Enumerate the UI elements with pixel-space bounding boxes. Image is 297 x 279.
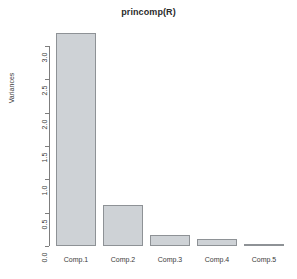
y-tick-label-1: 0.5 [41, 211, 48, 237]
bar-Comp.4 [197, 239, 237, 246]
bar-Comp.1 [56, 33, 96, 246]
x-label-Comp.3: Comp.3 [150, 256, 190, 263]
y-axis-label: Variances [8, 48, 15, 128]
y-tick-label-3: 1.5 [41, 145, 48, 171]
bar-Comp.5 [244, 244, 284, 246]
screeplot-figure: princomp(R) Variances 0.00.51.01.52.02.5… [0, 0, 297, 279]
y-tick-label-4: 2.0 [41, 111, 48, 137]
x-label-Comp.1: Comp.1 [56, 256, 96, 263]
y-axis-line [49, 46, 50, 246]
bar-Comp.2 [103, 205, 143, 246]
y-tick-label-6: 3.0 [41, 45, 48, 71]
y-tick-label-5: 2.5 [41, 78, 48, 104]
y-tick-label-0: 0.0 [41, 245, 48, 271]
x-label-Comp.2: Comp.2 [103, 256, 143, 263]
bar-Comp.3 [150, 235, 190, 246]
x-label-Comp.5: Comp.5 [244, 256, 284, 263]
page-title: princomp(R) [0, 7, 297, 17]
x-label-Comp.4: Comp.4 [197, 256, 237, 263]
y-tick-label-2: 1.0 [41, 178, 48, 204]
